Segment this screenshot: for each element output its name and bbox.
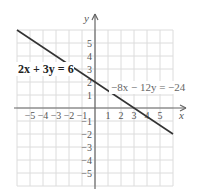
y-tick-label: −1 <box>81 116 92 127</box>
y-tick-label: −3 <box>81 142 92 153</box>
y-axis-label: y <box>83 12 89 24</box>
x-tick-label: −3 <box>51 110 62 121</box>
x-tick-label: 2 <box>119 110 124 121</box>
equation-label-1: 2x + 3y = 6 <box>18 62 74 76</box>
y-tick-label: 4 <box>87 51 92 62</box>
y-tick-label: 5 <box>87 38 92 49</box>
x-axis-label: x <box>178 109 184 121</box>
equation-label-2: −8x − 12y = −24 <box>111 81 186 93</box>
y-tick-label: 3 <box>87 64 92 75</box>
y-tick-label: −2 <box>81 129 92 140</box>
x-tick-label: −2 <box>64 110 75 121</box>
coordinate-plane: −5−4−3−2−11234554321−1−2−3−4−5 x y 2x + … <box>0 0 203 189</box>
x-tick-label: −5 <box>25 110 36 121</box>
x-tick-label: 1 <box>106 110 111 121</box>
x-tick-label: 5 <box>158 110 163 121</box>
x-tick-label: 3 <box>132 110 137 121</box>
y-tick-label: −5 <box>81 168 92 179</box>
y-tick-label: −4 <box>81 155 92 166</box>
y-tick-label: 1 <box>87 90 92 101</box>
x-tick-label: −4 <box>38 110 49 121</box>
